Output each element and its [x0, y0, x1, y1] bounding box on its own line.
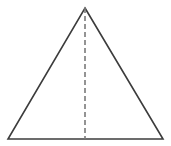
geometry-figure-canvas: Isosceles triangle with dashed altitude — [0, 0, 171, 146]
triangle-diagram-svg — [0, 0, 171, 146]
